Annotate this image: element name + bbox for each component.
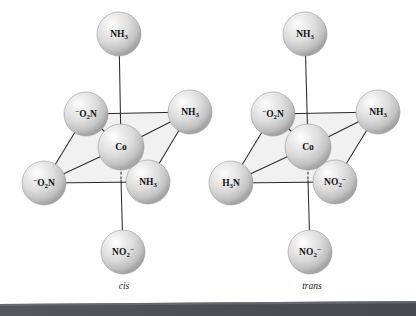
caption-cis: cis <box>119 281 130 291</box>
structure-trans: NH3NO2−−O2NNH3H3NNO2−Cotrans <box>209 12 400 291</box>
ligand-sphere-axial-top: NH3 <box>97 12 141 56</box>
ligand-sphere-equatorial-front-left: H3N <box>209 161 253 205</box>
ligand-sphere-equatorial-back-right: NH3 <box>168 90 212 134</box>
central-atom-label: Co <box>302 142 314 152</box>
central-atom-label: Co <box>115 142 127 152</box>
central-atom: Co <box>98 124 144 170</box>
isomer-diagram: NH3NO2−−O2NNH3−O2NNH3CocisNH3NO2−−O2NNH3… <box>0 0 416 316</box>
central-atom: Co <box>285 124 331 170</box>
ligand-sphere-axial-bottom: NO2− <box>101 230 145 274</box>
ligand-sphere-equatorial-back-left: −O2N <box>251 92 295 136</box>
ligand-label-equatorial-back-left: −O2N <box>262 107 284 119</box>
structure-cis: NH3NO2−−O2NNH3−O2NNH3Cocis <box>22 12 212 291</box>
ligand-label-equatorial-back-left: −O2N <box>75 107 97 119</box>
ligand-sphere-axial-bottom: NO2− <box>288 230 332 274</box>
ligand-sphere-axial-top: NH3 <box>283 12 327 56</box>
caption-trans: trans <box>302 281 322 291</box>
ligand-sphere-equatorial-front-left: −O2N <box>22 161 66 205</box>
bottom-decorative-bar <box>0 300 416 316</box>
ligand-label-equatorial-front-left: −O2N <box>33 176 55 188</box>
ligand-sphere-equatorial-back-right: NH3 <box>356 90 400 134</box>
ligand-sphere-equatorial-back-left: −O2N <box>64 92 108 136</box>
